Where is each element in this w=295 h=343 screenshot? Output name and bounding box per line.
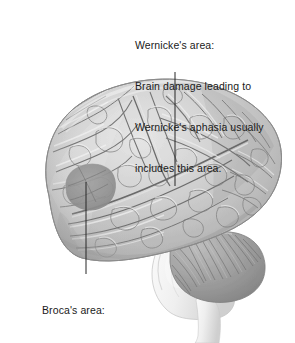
callout-line: includes this area. [135,162,264,176]
brocas-area-callout: Broca's area: Brain damage leading to Br… [42,277,129,343]
wernickes-area-callout: Wernicke's area: Brain damage leading to… [135,12,264,202]
callout-line: Wernicke's aphasia usually [135,121,264,135]
callout-line: Brain damage leading to [135,80,264,94]
callout-line: Broca's area: [42,304,129,318]
brocas-area-patch [65,164,116,211]
brain-language-areas-figure: Wernicke's area: Brain damage leading to… [0,0,295,343]
callout-line: Wernicke's area: [135,39,264,53]
